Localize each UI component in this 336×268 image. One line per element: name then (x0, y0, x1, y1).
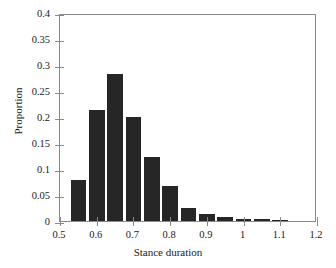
y-tick-mark-inner (60, 145, 64, 146)
x-tick-label: 0.9 (186, 229, 226, 240)
y-tick-label: 0.2 (0, 112, 50, 123)
x-tick-label: 0.6 (76, 229, 116, 240)
y-tick-mark-inner (60, 119, 64, 120)
y-tick-mark-inner (60, 171, 64, 172)
x-tick-mark (244, 221, 245, 226)
y-tick-mark-inner (60, 15, 64, 16)
bar (126, 117, 142, 221)
y-tick-label: 0.35 (0, 34, 50, 45)
bar (254, 219, 270, 221)
x-tick-label: 0.5 (39, 229, 79, 240)
x-tick-mark (280, 221, 281, 226)
y-tick-mark-inner (60, 197, 64, 198)
x-tick-mark-inner (207, 217, 208, 221)
bar (107, 74, 123, 221)
bar (71, 180, 87, 221)
y-tick-label: 0.05 (0, 190, 50, 201)
x-tick-label: 1 (223, 229, 263, 240)
y-tick-label: 0 (0, 216, 50, 227)
bar-series (60, 15, 315, 221)
bar (217, 217, 233, 221)
x-axis-title: Stance duration (0, 246, 336, 258)
y-tick-label: 0.3 (0, 60, 50, 71)
y-tick-mark-inner (60, 67, 64, 68)
y-tick-label: 0.1 (0, 164, 50, 175)
histogram-figure: 00.050.10.150.20.250.30.350.4 0.50.60.70… (0, 0, 336, 268)
x-tick-mark-inner (170, 217, 171, 221)
x-tick-mark (317, 221, 318, 226)
bar (162, 186, 178, 221)
x-tick-mark-inner (133, 217, 134, 221)
x-tick-mark-inner (97, 217, 98, 221)
x-tick-mark (133, 221, 134, 226)
y-tick-label: 0.15 (0, 138, 50, 149)
x-tick-mark (207, 221, 208, 226)
bar (181, 208, 197, 221)
x-tick-mark-inner (317, 217, 318, 221)
plot-area (59, 14, 316, 222)
x-tick-label: 0.7 (112, 229, 152, 240)
x-tick-mark (170, 221, 171, 226)
y-tick-mark-inner (60, 93, 64, 94)
x-tick-mark (60, 221, 61, 226)
y-tick-label: 0.4 (0, 8, 50, 19)
y-axis-title: Proportion (12, 51, 24, 171)
x-tick-mark-inner (244, 217, 245, 221)
x-tick-label: 0.8 (149, 229, 189, 240)
y-tick-mark-inner (60, 41, 64, 42)
x-tick-mark-inner (60, 217, 61, 221)
x-tick-label: 1.1 (259, 229, 299, 240)
bar (89, 110, 105, 221)
x-tick-mark (97, 221, 98, 226)
x-tick-mark-inner (280, 217, 281, 221)
y-tick-label: 0.25 (0, 86, 50, 97)
bar (144, 157, 160, 221)
x-tick-label: 1.2 (296, 229, 336, 240)
